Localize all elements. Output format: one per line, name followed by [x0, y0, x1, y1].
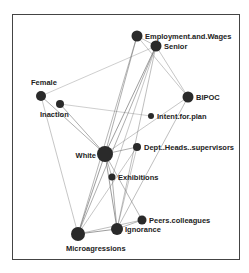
edge-senior-bipoc: [156, 46, 188, 97]
node-label-exhib: Exhibitions: [118, 173, 158, 182]
node-bipoc: [183, 92, 194, 103]
edge-emp-micro: [78, 36, 137, 234]
node-label-bipoc: BIPOC: [196, 93, 220, 102]
node-label-inaction: Inaction: [40, 110, 69, 119]
node-layer: [36, 31, 194, 242]
node-label-senior: Senior: [164, 42, 187, 51]
node-peers: [138, 216, 147, 225]
edge-layer: [41, 36, 188, 234]
node-label-white: White: [76, 151, 96, 160]
edge-dept-ignorance: [117, 147, 137, 229]
edge-senior-exhib: [112, 46, 156, 177]
edge-emp-white: [105, 36, 137, 154]
node-dept: [133, 143, 141, 151]
node-label-peers: Peers.colleagues: [149, 216, 210, 225]
edge-white-micro: [78, 154, 105, 234]
node-senior: [151, 41, 162, 52]
node-label-emp: Employment.and.Wages: [145, 32, 231, 41]
label-layer: Employment.and.WagesSeniorFemaleInaction…: [31, 32, 234, 253]
node-label-female: Female: [31, 78, 57, 87]
edge-female-white: [41, 96, 105, 154]
network-graph: Employment.and.WagesSeniorFemaleInaction…: [0, 0, 249, 273]
edge-senior-white: [105, 46, 156, 154]
edge-senior-ignorance: [117, 46, 156, 229]
node-intent: [148, 113, 154, 119]
node-label-dept: Dept..Heads..supervisors: [144, 143, 234, 152]
node-ignorance: [111, 223, 123, 235]
edge-female-senior: [41, 46, 156, 96]
node-exhib: [109, 174, 116, 181]
node-label-ignorance: Ignorance: [125, 225, 161, 234]
node-white: [97, 146, 113, 162]
node-female: [36, 91, 46, 101]
node-inaction: [56, 100, 64, 108]
node-label-micro: Microagressions: [66, 244, 126, 253]
node-micro: [71, 227, 85, 241]
edge-inaction-intent: [60, 104, 151, 116]
node-label-intent: Intent.for.plan: [157, 112, 207, 121]
node-emp: [132, 31, 143, 42]
